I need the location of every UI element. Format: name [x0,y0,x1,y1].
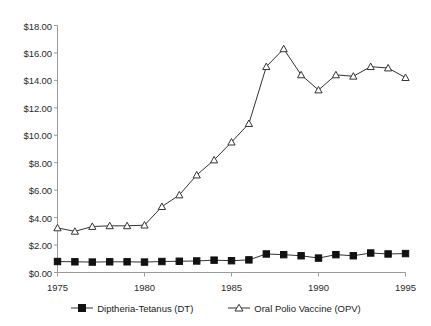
x-tick-label: 1995 [395,282,416,293]
series-oral-polio-vaccine [54,45,409,234]
series-diptheria-tetanus [54,250,408,265]
legend-item-dt: Diptheria-Tetanus (DT) [70,303,193,314]
legend-marker-open-triangle-icon [227,303,251,313]
axes-group [54,26,406,277]
x-tick-label: 1975 [47,282,68,293]
x-axis-ticks [58,273,406,277]
chart-legend: Diptheria-Tetanus (DT) Oral Polio Vaccin… [0,303,431,314]
x-tick-label: 1980 [134,282,155,293]
y-axis-ticks [54,26,58,273]
x-tick-label: 1985 [221,282,242,293]
x-tick-label: 1990 [308,282,329,293]
chart-plot [0,0,431,326]
legend-label-dt: Diptheria-Tetanus (DT) [97,303,193,314]
legend-label-opv: Oral Polio Vaccine (OPV) [254,303,360,314]
chart-container: $18.00$16.00$14.00$12.00$10.00$8.00$6.00… [0,0,431,326]
legend-item-opv: Oral Polio Vaccine (OPV) [227,303,360,314]
legend-marker-filled-square-icon [70,303,94,313]
